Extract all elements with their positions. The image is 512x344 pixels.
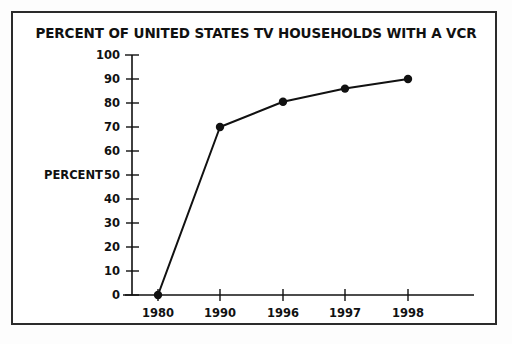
y-tick-label-20: 20 (75, 240, 120, 254)
y-tick-label-60: 60 (75, 144, 120, 158)
data-line (158, 79, 408, 295)
x-tick-label-1996: 1996 (267, 306, 299, 320)
x-tick-label-1980: 1980 (142, 306, 174, 320)
data-point-1980 (154, 291, 162, 299)
y-tick-label-10: 10 (75, 264, 120, 278)
x-tick-label-1998: 1998 (392, 306, 424, 320)
y-tick-label-100: 100 (75, 48, 120, 62)
y-tick-label-30: 30 (75, 216, 120, 230)
y-tick-label-0: 0 (75, 288, 120, 302)
y-tick-label-40: 40 (75, 192, 120, 206)
data-point-1998 (404, 75, 412, 83)
data-point-markers (154, 75, 412, 299)
x-tick-label-1990: 1990 (204, 306, 236, 320)
chart-figure-frame: PERCENT OF UNITED STATES TV HOUSEHOLDS W… (11, 11, 497, 325)
data-point-1997 (341, 84, 349, 92)
data-point-1996 (279, 98, 287, 106)
y-tick-label-80: 80 (75, 96, 120, 110)
data-point-1990 (216, 123, 224, 131)
plot-area: PERCENT 100 90 80 70 60 50 40 30 20 10 0… (13, 13, 499, 327)
y-tick-label-70: 70 (75, 120, 120, 134)
screenshot-page: PERCENT OF UNITED STATES TV HOUSEHOLDS W… (0, 0, 512, 344)
y-tick-label-50: 50 (75, 168, 120, 182)
x-tick-label-1997: 1997 (329, 306, 361, 320)
y-tick-label-90: 90 (75, 72, 120, 86)
